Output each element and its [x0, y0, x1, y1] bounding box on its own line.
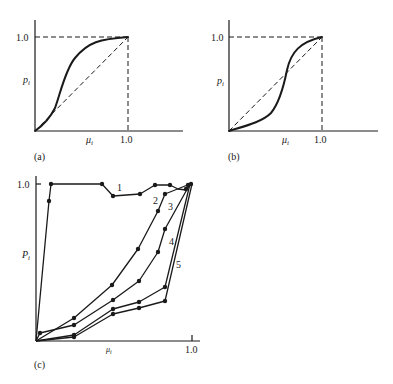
panel-caption: (c) [34, 359, 45, 371]
y-axis-label: pi [216, 75, 224, 88]
figure-canvas: .axis { stroke:#1a1a1a; stroke-width:1.2… [0, 0, 393, 384]
panel-a: 1.0 1.0 pi μi (a) [16, 20, 183, 163]
x-axis-label: μi [85, 134, 93, 147]
curve-label-2: 2 [153, 195, 158, 206]
x-axis-label: μi [105, 345, 112, 355]
curve-2 [36, 184, 190, 341]
curve-label-5: 5 [176, 259, 181, 270]
x-tick-label: 1.0 [185, 344, 198, 355]
curve-3 [36, 184, 190, 341]
panel-c: 1 2 3 4 5 1.0 1.0 Pi μi (c) [17, 176, 200, 371]
y-tick-label: 1.0 [16, 32, 29, 43]
panel-b: 1.0 1.0 pi μi (b) [211, 20, 378, 163]
y-tick-label: 1.0 [17, 179, 30, 190]
y-tick-label: 1.0 [211, 32, 224, 43]
curve-label-1: 1 [117, 182, 122, 193]
curve-label-3: 3 [168, 201, 173, 212]
y-axis-label: Pi [21, 249, 30, 262]
curve-label-4: 4 [169, 236, 174, 247]
diagonal-line [229, 37, 322, 131]
panel-caption: (b) [228, 151, 240, 163]
x-axis-label: μi [281, 134, 289, 147]
panel-caption: (a) [34, 151, 45, 163]
y-axis-label: pi [22, 74, 30, 87]
x-tick-label: 1.0 [314, 134, 327, 145]
curve-4 [36, 184, 190, 341]
x-tick-label: 1.0 [120, 134, 133, 145]
